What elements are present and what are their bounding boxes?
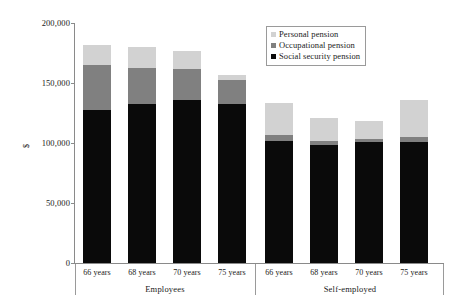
bar-segment-occupational-pension bbox=[83, 65, 111, 110]
legend-label: Personal pension bbox=[279, 29, 338, 40]
legend-item-social-security-pension: Social security pension bbox=[271, 51, 360, 62]
group-separator bbox=[443, 264, 444, 295]
bar-segment-social-security-pension bbox=[355, 142, 383, 264]
bar-3 bbox=[218, 75, 246, 264]
bar-segment-social-security-pension bbox=[83, 110, 111, 264]
bar-0 bbox=[83, 45, 111, 264]
y-tick-label: 200,000 bbox=[22, 18, 70, 28]
legend-swatch-icon bbox=[271, 32, 276, 37]
legend-swatch-icon bbox=[271, 43, 276, 48]
group-separator bbox=[255, 264, 256, 295]
x-axis-label-3: 75 years bbox=[206, 268, 258, 277]
bar-segment-personal-pension bbox=[355, 121, 383, 139]
bar-segment-personal-pension bbox=[265, 103, 293, 136]
group-label-employees: Employees bbox=[79, 284, 251, 294]
bar-segment-social-security-pension bbox=[265, 141, 293, 264]
bar-7 bbox=[400, 100, 428, 264]
y-tick-150000: 150,000 bbox=[22, 78, 70, 88]
bar-4 bbox=[265, 103, 293, 264]
legend-label: Social security pension bbox=[279, 51, 360, 62]
bar-1 bbox=[128, 47, 156, 264]
legend-label: Occupational pension bbox=[279, 40, 355, 51]
bar-segment-social-security-pension bbox=[310, 145, 338, 264]
bar-segment-occupational-pension bbox=[128, 68, 156, 104]
y-tick-label: 0 bbox=[22, 258, 70, 268]
x-axis-line bbox=[74, 263, 444, 264]
bar-segment-occupational-pension bbox=[173, 69, 201, 100]
bar-segment-personal-pension bbox=[310, 118, 338, 141]
bar-segment-personal-pension bbox=[128, 47, 156, 67]
bar-2 bbox=[173, 51, 201, 264]
bar-segment-personal-pension bbox=[83, 45, 111, 65]
bar-segment-personal-pension bbox=[173, 51, 201, 69]
legend-item-occupational-pension: Occupational pension bbox=[271, 40, 360, 51]
group-label-self-employed: Self-employed bbox=[259, 284, 441, 294]
bar-segment-social-security-pension bbox=[128, 104, 156, 264]
bar-5 bbox=[310, 118, 338, 264]
bar-segment-personal-pension bbox=[400, 100, 428, 137]
plot-area bbox=[75, 23, 443, 264]
x-axis-label-7: 75 years bbox=[388, 268, 440, 277]
y-tick-0: 0 bbox=[22, 258, 70, 268]
bar-6 bbox=[355, 121, 383, 264]
y-tick-label: 100,000 bbox=[22, 138, 70, 148]
group-separator bbox=[75, 264, 76, 295]
bar-segment-social-security-pension bbox=[218, 104, 246, 264]
chart-legend: Personal pension Occupational pension So… bbox=[266, 26, 366, 66]
bar-segment-occupational-pension bbox=[218, 80, 246, 104]
y-tick-label: 150,000 bbox=[22, 78, 70, 88]
bar-segment-social-security-pension bbox=[173, 100, 201, 264]
y-tick-200000: 200,000 bbox=[22, 18, 70, 28]
legend-swatch-icon bbox=[271, 54, 276, 59]
legend-item-personal-pension: Personal pension bbox=[271, 29, 360, 40]
y-tick-50000: 50,000 bbox=[22, 198, 70, 208]
stacked-bar-chart: $ 200,000 150,000 100,000 50,000 0 66 ye… bbox=[0, 0, 449, 305]
y-tick-100000: 100,000 bbox=[22, 138, 70, 148]
bar-segment-social-security-pension bbox=[400, 142, 428, 264]
y-tick-label: 50,000 bbox=[22, 198, 70, 208]
